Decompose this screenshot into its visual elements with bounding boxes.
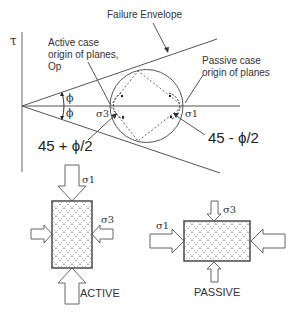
passive-top-stress-label: σ3 bbox=[223, 204, 236, 215]
phi-upper-label: ϕ bbox=[66, 93, 74, 104]
active-element bbox=[31, 165, 113, 304]
passive-angle-label: 45 - ϕ/2 bbox=[208, 130, 259, 146]
mohr-diagram-graphic bbox=[0, 0, 301, 319]
passive-origin-label-1: Passive case bbox=[202, 55, 261, 66]
tau-axis-label: τ bbox=[10, 36, 17, 47]
active-angle-label: 45 + ϕ/2 bbox=[38, 138, 93, 154]
phi-lower-label: ϕ bbox=[66, 108, 74, 119]
active-top-stress-label: σ1 bbox=[82, 174, 95, 185]
passive-element bbox=[150, 201, 285, 282]
sigma1-label: σ1 bbox=[185, 108, 198, 119]
passive-origin-label-2: origin of planes bbox=[202, 67, 270, 78]
sigma3-label: σ3 bbox=[96, 108, 109, 119]
active-caption: ACTIVE bbox=[80, 288, 120, 299]
active-origin-label-1: Active case bbox=[48, 37, 99, 48]
passive-side-stress-label: σ1 bbox=[156, 220, 169, 231]
active-origin-label-3: Op bbox=[48, 61, 61, 72]
failure-envelope-label: Failure Envelope bbox=[107, 9, 182, 20]
passive-caption: PASSIVE bbox=[194, 287, 240, 298]
active-origin-label-2: origin of planes, bbox=[48, 49, 119, 60]
active-side-stress-label: σ3 bbox=[101, 214, 114, 225]
